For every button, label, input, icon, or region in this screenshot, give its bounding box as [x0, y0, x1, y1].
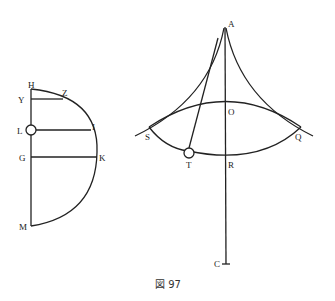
axis-AC: [225, 27, 226, 264]
label-H: H: [28, 80, 35, 90]
label-A: A: [228, 19, 235, 29]
label-S: S: [145, 132, 150, 142]
right-diagram: [135, 27, 313, 264]
label-Z: Z: [62, 88, 68, 98]
label-L: L: [17, 126, 23, 136]
label-I: I: [92, 122, 95, 132]
label-T: T: [186, 160, 192, 170]
label-M: M: [19, 222, 27, 232]
label-R: R: [228, 160, 234, 170]
figure-caption: 図 97: [155, 276, 181, 291]
label-G: G: [19, 153, 26, 163]
label-C: C: [214, 259, 220, 269]
label-O: O: [228, 107, 235, 117]
cycloid-right: [226, 28, 313, 136]
label-K: K: [99, 153, 106, 163]
cycloid-left: [135, 28, 224, 136]
bob-circle-T: [184, 148, 194, 158]
figure-canvas: H Y Z L I G K M A O S Q T R C: [0, 0, 335, 301]
label-Y: Y: [18, 95, 25, 105]
label-Q: Q: [295, 132, 302, 142]
left-diagram: [26, 89, 97, 226]
bob-circle-L: [26, 125, 36, 135]
